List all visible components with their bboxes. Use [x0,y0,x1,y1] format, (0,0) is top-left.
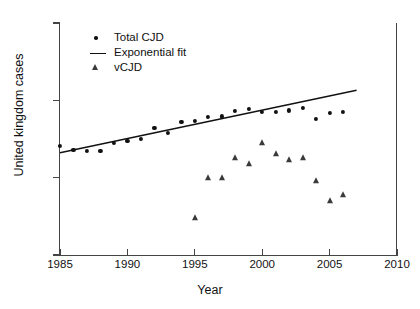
line-marker-icon [90,53,106,54]
dot-marker-icon [94,36,98,40]
y-tick [53,100,60,101]
legend-label: vCJD [114,61,142,73]
chart-legend: Total CJD Exponential fit vCJD [88,30,186,75]
legend-label: Total CJD [114,31,164,43]
y-tick [53,177,60,178]
data-point-vcjd [192,214,198,220]
x-tick-label: 2000 [240,258,284,270]
data-point-vcjd [232,154,238,160]
triangle-marker-icon [92,64,98,70]
legend-item-total-cjd: Total CJD [88,30,186,45]
x-tick-label: 1990 [105,258,149,270]
x-axis-line [59,255,398,256]
y-axis-label: United kingdom cases [12,0,26,230]
data-point-vcjd [219,174,225,180]
data-point-vcjd [340,191,346,197]
legend-label: Exponential fit [114,46,186,58]
chart-figure: 1101001000 198519901995200020052010 Unit… [0,0,420,309]
data-point-vcjd [205,174,211,180]
x-tick-label: 1985 [38,258,82,270]
data-point-vcjd [286,156,292,162]
x-tick-label: 1995 [173,258,217,270]
data-point-vcjd [246,160,252,166]
data-point-vcjd [259,139,265,145]
x-tick-label: 2005 [308,258,352,270]
data-point-vcjd [300,154,306,160]
data-point-vcjd [273,151,279,157]
data-point-vcjd [313,177,319,183]
data-point-vcjd [327,197,333,203]
x-axis-label: Year [0,283,420,297]
legend-item-vcjd: vCJD [88,60,186,75]
x-tick-label: 2010 [375,258,419,270]
legend-item-exponential-fit: Exponential fit [88,45,186,60]
y-tick [53,22,60,23]
